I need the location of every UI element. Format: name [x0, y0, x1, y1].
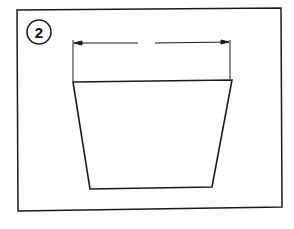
trapezoid-shape [73, 80, 232, 189]
arrowhead-right-icon [221, 40, 229, 44]
diagram-canvas: 2 [0, 0, 294, 229]
outer-frame [17, 8, 282, 211]
arrowhead-left-icon [74, 41, 82, 45]
dimension-line [73, 40, 230, 81]
step-number: 2 [35, 24, 43, 41]
